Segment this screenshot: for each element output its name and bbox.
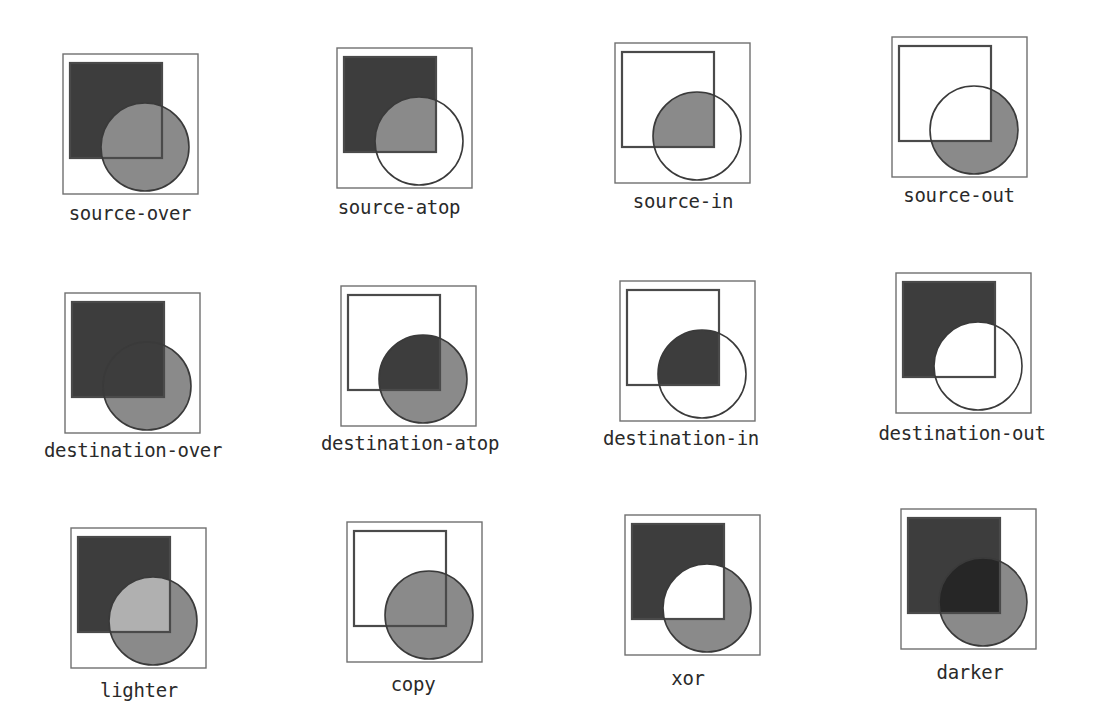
composite-diagram-destination-atop [339, 284, 478, 428]
composite-diagram-source-out [890, 35, 1029, 179]
composite-diagram-lighter [69, 526, 208, 670]
composite-diagram-source-atop [335, 46, 474, 190]
panel-label-destination-over: destination-over [44, 439, 222, 461]
composite-diagram-copy [345, 520, 484, 664]
panel-label-source-out: source-out [903, 184, 1014, 206]
panel-label-destination-atop: destination-atop [321, 432, 499, 454]
composite-diagram-destination-over [63, 291, 202, 435]
panel-label-source-over: source-over [69, 202, 192, 224]
composite-diagram-source-over [61, 52, 200, 196]
panel-label-xor: xor [671, 667, 704, 689]
panel-label-lighter: lighter [100, 679, 178, 701]
panel-label-copy: copy [391, 673, 436, 695]
panel-label-source-in: source-in [633, 190, 733, 212]
composite-diagram-destination-out [894, 271, 1033, 415]
panel-label-source-atop: source-atop [338, 196, 461, 218]
composite-diagram-xor [623, 513, 762, 657]
composite-diagram-destination-in [618, 279, 757, 423]
composite-diagram-darker [899, 507, 1038, 651]
composite-diagram-source-in [613, 41, 752, 185]
panel-label-darker: darker [937, 661, 1004, 683]
panel-label-destination-in: destination-in [603, 427, 759, 449]
panel-label-destination-out: destination-out [878, 422, 1045, 444]
